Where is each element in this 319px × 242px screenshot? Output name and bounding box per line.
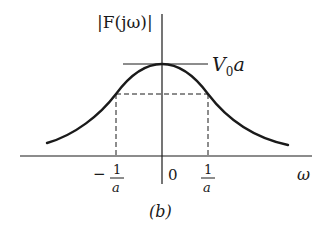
spectrum-diagram: |F(jω)| V0a − 1 a 0 1 a ω (b) <box>0 0 319 242</box>
y-axis-label: |F(jω)| <box>97 12 153 32</box>
zero-tick: 0 <box>168 166 178 184</box>
pos-tick-denominator: a <box>203 180 211 195</box>
figure-caption: (b) <box>149 202 172 221</box>
neg-tick-numerator: 1 <box>113 162 121 177</box>
peak-label: V0a <box>212 53 245 79</box>
neg-tick-denominator: a <box>112 180 120 195</box>
magnitude-curve <box>47 64 288 145</box>
pos-tick-numerator: 1 <box>204 162 212 177</box>
neg-tick-sign: − <box>93 165 106 183</box>
x-axis-label: ω <box>297 165 310 184</box>
